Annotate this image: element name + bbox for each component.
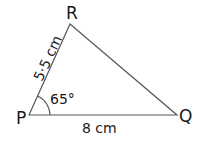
side-label-pq: 8 cm: [82, 120, 117, 136]
vertex-label-p: P: [16, 108, 26, 128]
angle-label-p: 65°: [50, 91, 75, 107]
vertex-label-q: Q: [179, 106, 192, 126]
angle-arc-p: [38, 96, 50, 115]
vertex-label-r: R: [66, 3, 78, 23]
side-label-pr: 5·5 cm: [30, 33, 65, 83]
triangle-diagram: P R Q 5·5 cm 8 cm 65°: [0, 0, 202, 142]
